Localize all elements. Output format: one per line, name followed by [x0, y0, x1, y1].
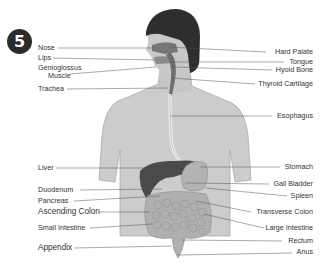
- label-gall-bladder: Gall Bladder: [273, 180, 313, 188]
- digestive-system-diagram: 5 Nose Lips Genioglossus Muscle Trachea …: [0, 0, 322, 271]
- label-hyoid-bone: Hyoid Bone: [276, 66, 313, 74]
- label-lips: Lips: [38, 54, 51, 62]
- label-stomach: Stomach: [285, 163, 313, 171]
- label-large-intestine: Large Intestine: [265, 224, 313, 232]
- label-ascending-colon: Ascending Colon: [38, 207, 100, 216]
- label-transverse-colon: Transverse Colon: [257, 208, 313, 216]
- figure-number-badge: 5: [7, 29, 32, 54]
- label-hard-palate: Hard Palate: [275, 48, 313, 56]
- label-small-intestine: Small Intestine: [38, 224, 85, 232]
- label-muscle: Muscle: [48, 72, 71, 80]
- label-duodenum: Duodenum: [38, 186, 73, 194]
- label-esophagus: Esophagus: [277, 112, 313, 120]
- label-nose: Nose: [38, 44, 55, 52]
- label-thyroid-cartilage: Thyroid Cartilage: [258, 80, 313, 88]
- label-pancreas: Pancreas: [38, 197, 68, 205]
- label-spleen: Spleen: [291, 192, 313, 200]
- label-liver: Liver: [38, 164, 54, 172]
- label-trachea: Trachea: [38, 85, 64, 93]
- label-appendix: Appendix: [38, 243, 72, 252]
- label-rectum: Rectum: [288, 237, 313, 245]
- label-anus: Anus: [297, 248, 313, 256]
